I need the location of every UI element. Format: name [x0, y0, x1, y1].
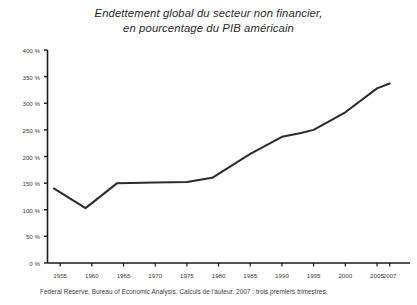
x-axis-tick-label: 1975 — [180, 272, 194, 279]
chart-figure: Endettement global du secteur non financ… — [0, 0, 417, 305]
line-chart-svg — [0, 0, 417, 305]
y-axis-tick-label: 0 % — [8, 260, 40, 267]
x-axis-tick-label: 1955 — [53, 272, 67, 279]
data-series-group — [54, 84, 390, 209]
source-note: Federal Reserve, Bureau of Economic Anal… — [40, 287, 410, 296]
plot-area: 0 %50 %100 %150 %200 %250 %300 %350 %400… — [0, 0, 417, 305]
y-axis-tick-label: 250 % — [8, 126, 40, 133]
y-axis-tick-label: 50 % — [8, 233, 40, 240]
y-axis-tick-label: 100 % — [8, 206, 40, 213]
x-axis-tick-label: 2007 — [383, 272, 397, 279]
y-axis-tick-label: 200 % — [8, 153, 40, 160]
y-axis-tick-label: 350 % — [8, 73, 40, 80]
x-axis-tick-label: 1980 — [212, 272, 226, 279]
x-axis-tick-label: 1960 — [85, 272, 99, 279]
y-axis-tick-label: 300 % — [8, 100, 40, 107]
x-axis-tick-label: 1995 — [307, 272, 321, 279]
x-axis-tick-label: 2000 — [338, 272, 352, 279]
x-axis-tick-label: 1965 — [117, 272, 131, 279]
x-axis-tick-label: 1985 — [243, 272, 257, 279]
chart-axes — [44, 50, 410, 267]
data-line-endettement — [54, 84, 390, 209]
x-axis-tick-label: 1970 — [148, 272, 162, 279]
y-axis-tick-label: 150 % — [8, 180, 40, 187]
y-axis-tick-label: 400 % — [8, 47, 40, 54]
x-axis-tick-label: 1990 — [275, 272, 289, 279]
